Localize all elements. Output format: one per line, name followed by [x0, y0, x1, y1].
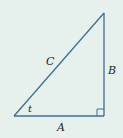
triangle [14, 13, 104, 116]
triangle-figure: C B A t [0, 0, 123, 138]
hypotenuse-line [14, 13, 104, 116]
horizontal-leg-label: A [56, 121, 65, 134]
angle-label: t [28, 103, 33, 114]
right-angle-marker [97, 109, 104, 116]
hypotenuse-label: C [46, 55, 55, 68]
right-triangle-diagram: C B A t [0, 0, 123, 138]
vertical-leg-label: B [107, 64, 116, 77]
